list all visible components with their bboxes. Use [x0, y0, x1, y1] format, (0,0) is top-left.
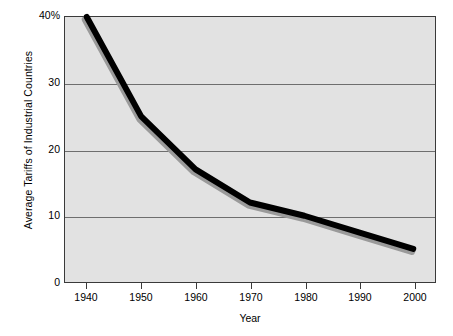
tariff-line-chart: Average Tariffs of Industrial Countries …: [0, 0, 453, 336]
series-line: [87, 17, 413, 249]
x-axis-tick-mark-1980: [306, 283, 307, 289]
x-axis-tick-label-1980: 1980: [284, 291, 328, 303]
x-axis-tick-mark-1960: [196, 283, 197, 289]
x-axis-tick-mark-1950: [141, 283, 142, 289]
y-axis-tick-label-20: 20: [24, 144, 60, 155]
x-axis-tick-label-1970: 1970: [229, 291, 273, 303]
x-axis-title: Year: [64, 312, 436, 324]
x-axis-tick-mark-1990: [360, 283, 361, 289]
series-line-shadow: [85, 20, 411, 252]
x-axis-tick-label-2000: 2000: [393, 291, 437, 303]
x-axis-tick-label-1950: 1950: [119, 291, 163, 303]
x-axis-tick-label-1940: 1940: [64, 291, 108, 303]
x-axis-tick-label-1990: 1990: [338, 291, 382, 303]
x-axis-tick-label-1960: 1960: [174, 291, 218, 303]
plot-area: [64, 16, 436, 283]
series-plot: [65, 17, 435, 282]
x-axis-tick-mark-1970: [251, 283, 252, 289]
y-axis-tick-label-40: 40%: [24, 10, 60, 21]
y-axis-tick-label-30: 30: [24, 77, 60, 88]
y-axis-tick-label-10: 10: [24, 210, 60, 221]
y-axis-title: Average Tariffs of Industrial Countries: [22, 20, 34, 260]
x-axis-tick-mark-2000: [415, 283, 416, 289]
x-axis-tick-mark-1940: [86, 283, 87, 289]
y-axis-tick-label-0: 0: [24, 277, 60, 288]
